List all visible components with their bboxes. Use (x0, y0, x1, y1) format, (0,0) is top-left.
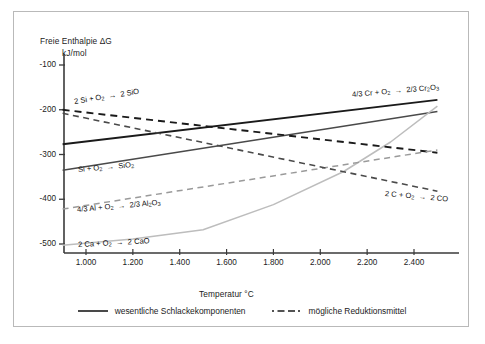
series-line (63, 150, 438, 209)
legend-label: wesentliche Schlackekomponenten (115, 306, 246, 316)
data-series-group (63, 100, 438, 245)
x-axis-title: Temperatur °C (199, 289, 254, 299)
x-tick-label: 1.400 (160, 258, 200, 267)
series-line (63, 110, 438, 153)
x-tick-label: 2.200 (347, 258, 387, 267)
series-line (63, 100, 438, 144)
legend-solid-line-icon (78, 307, 108, 315)
x-tick-label: 1.200 (113, 258, 153, 267)
y-tick-label: -100 (22, 60, 56, 69)
series-line (63, 106, 438, 245)
y-tick-label: -300 (22, 150, 56, 159)
legend: wesentliche Schlackekomponentenmögliche … (14, 306, 470, 316)
legend-dashed-line-icon (272, 307, 302, 315)
y-tick-label: -400 (22, 194, 56, 203)
x-tick-label: 2.000 (300, 258, 340, 267)
x-tick-label: 2.400 (394, 258, 434, 267)
legend-item: wesentliche Schlackekomponenten (78, 306, 246, 316)
x-tick-label: 1.000 (66, 258, 106, 267)
y-tick-label: -500 (22, 239, 56, 248)
y-axis-unit-label: kJ/mol (62, 48, 87, 58)
x-tick-label: 1.600 (207, 258, 247, 267)
y-axis-title: Freie Enthalpie ΔG (40, 36, 112, 46)
legend-label: mögliche Reduktionsmittel (309, 306, 407, 316)
x-tick-label: 1.800 (253, 258, 293, 267)
x-axis-ticks (86, 249, 414, 255)
legend-item: mögliche Reduktionsmittel (272, 306, 407, 316)
y-tick-label: -200 (22, 105, 56, 114)
figure-frame: Freie Enthalpie ΔG kJ/mol Temperatur °C … (13, 11, 469, 327)
